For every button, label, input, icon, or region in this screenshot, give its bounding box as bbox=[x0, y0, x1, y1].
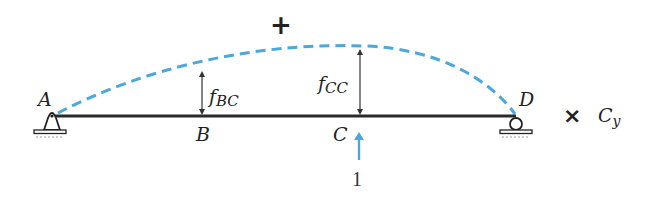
point-label-d: D bbox=[518, 88, 534, 110]
redundant-main: C bbox=[598, 104, 613, 126]
f-bc-subscript: BC bbox=[215, 92, 239, 110]
f-bc-label: fBC bbox=[207, 85, 239, 110]
point-label-a: A bbox=[36, 88, 52, 110]
redundant-subscript: y bbox=[612, 113, 622, 129]
point-label-c: C bbox=[333, 123, 348, 145]
diagram-canvas: + A B C D fBC fCC 1 × Cy bbox=[0, 0, 651, 197]
unit-load-value: 1 bbox=[352, 168, 362, 190]
multiply-sign: × bbox=[563, 103, 581, 128]
beam-diagram: + A B C D fBC fCC 1 × Cy bbox=[0, 0, 651, 197]
redundant-label: Cy bbox=[598, 104, 622, 129]
positive-sign-label: + bbox=[270, 10, 292, 40]
roller-support-d-icon bbox=[500, 118, 532, 137]
f-cc-label: fCC bbox=[316, 72, 349, 97]
f-cc-subscript: CC bbox=[325, 79, 348, 97]
deflected-shape-curve bbox=[58, 46, 515, 114]
point-label-b: B bbox=[195, 123, 210, 145]
